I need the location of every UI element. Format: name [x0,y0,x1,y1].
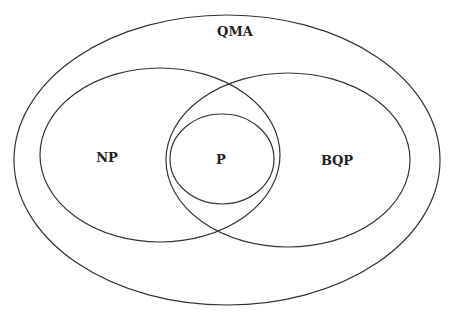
bqp-set-outline [166,73,410,247]
p-label: P [216,152,226,167]
bqp-label: BQP [321,153,353,168]
qma-set-outline [14,15,440,305]
complexity-venn-diagram: QMA NP BQP P [0,0,451,315]
np-set-outline [40,68,280,242]
qma-label: QMA [217,24,254,39]
np-label: NP [96,150,118,165]
